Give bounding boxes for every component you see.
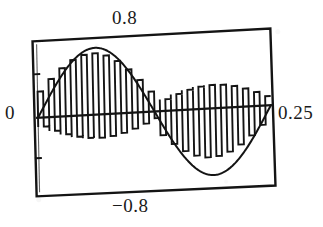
switched-waveform-curve xyxy=(37,50,272,161)
figure-canvas: 0.8 −0.8 0 0.25 xyxy=(0,0,323,227)
plot-area xyxy=(0,0,323,227)
plot-svg xyxy=(0,0,323,227)
